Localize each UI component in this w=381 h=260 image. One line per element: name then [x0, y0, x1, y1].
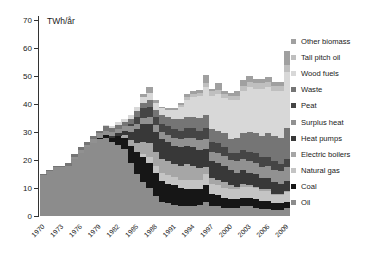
bar-segment-wood-fuels: [215, 94, 222, 130]
bar-segment-electric-boilers: [190, 166, 197, 180]
legend-item: Coal: [291, 179, 350, 195]
legend-label: Oil: [301, 198, 310, 207]
bar-segment-tall-pitch-oil: [228, 96, 235, 100]
bar-segment-other-biomass: [228, 93, 235, 96]
bar-segment-peat: [153, 117, 160, 125]
bar-segment-heat-pumps: [271, 182, 278, 193]
bar-segment-peat: [134, 117, 141, 124]
legend-item: Heat pumps: [291, 130, 350, 146]
bar-segment-coal: [184, 189, 191, 206]
bar-segment-heat-pumps: [128, 132, 135, 140]
legend-swatch: [291, 152, 296, 157]
bar-segment-heat-pumps: [121, 131, 128, 135]
bar-segment-oil: [84, 147, 91, 216]
bar-segment-wood-fuels: [228, 100, 235, 139]
y-axis-tick-label: 30: [23, 128, 32, 137]
bar-segment-oil: [178, 206, 185, 216]
bar-segment-waste: [265, 133, 272, 157]
bar-segment-waste: [84, 142, 91, 145]
bar-segment-oil: [153, 196, 160, 216]
x-axis-tick-label: 2003: [236, 223, 252, 239]
bar-segment-oil: [146, 188, 153, 216]
bar-segment-other-biomass: [140, 94, 147, 97]
bar-segment-surplus-heat: [215, 153, 222, 163]
bar-segment-heat-pumps: [259, 178, 266, 189]
bar-segment-heat-pumps: [146, 124, 153, 144]
y-axis-title: TWh/år: [47, 16, 75, 26]
bar-segment-tall-pitch-oil: [184, 97, 191, 100]
bar-segment-natural-gas: [278, 195, 285, 203]
bar-segment-tall-pitch-oil: [246, 82, 253, 88]
bar-segment-surplus-heat: [228, 160, 235, 170]
bar-segment-waste: [215, 131, 222, 144]
bar-segment-wood-fuels: [103, 125, 110, 126]
bar-segment-other-biomass: [259, 79, 266, 83]
bar-segment-wood-fuels: [196, 96, 203, 118]
bar-segment-coal: [146, 163, 153, 188]
bar-segment-peat: [184, 128, 191, 138]
bar-segment-coal: [153, 173, 160, 197]
legend-item: Other biomass: [291, 33, 350, 49]
bar-segment-surplus-heat: [146, 117, 153, 124]
bar-segment-peat: [196, 131, 203, 141]
bar-segment-heat-pumps: [228, 170, 235, 185]
bar-segment-wood-fuels: [259, 89, 266, 137]
bar-segment-wood-fuels: [284, 72, 291, 128]
bar-segment-oil: [271, 210, 278, 216]
bars-group: [40, 51, 290, 216]
bar-segment-other-biomass: [234, 91, 241, 95]
bar-segment-coal: [109, 138, 116, 142]
bar-segment-oil: [240, 206, 247, 216]
bar-segment-wood-fuels: [234, 100, 241, 138]
bar-segment-natural-gas: [190, 180, 197, 190]
bar-segment-oil: [190, 206, 197, 216]
bar-segment-waste: [171, 119, 178, 129]
bar-segment-wood-fuels: [278, 91, 285, 137]
bar-segment-electric-boilers: [215, 180, 222, 186]
bar-segment-coal: [196, 189, 203, 204]
bar-segment-peat: [246, 152, 253, 162]
bar-segment-oil: [121, 149, 128, 216]
bar-segment-coal: [265, 201, 272, 209]
bar-segment-oil: [46, 171, 53, 216]
bar-segment-peat: [209, 142, 216, 152]
bar-segment-electric-boilers: [146, 143, 153, 157]
y-axis-tick-label: 70: [23, 16, 32, 25]
bar-segment-peat: [271, 161, 278, 169]
bar-segment-waste: [246, 132, 253, 152]
bar-segment-surplus-heat: [234, 161, 241, 172]
x-axis-tick-label: 1994: [180, 223, 196, 239]
bar-segment-oil: [196, 205, 203, 216]
bar-segment-wood-fuels: [146, 93, 153, 100]
bar-segment-waste: [153, 110, 160, 117]
x-axis-labels: 1970197319761979198219851988199119941997…: [30, 223, 290, 239]
bar-segment-oil: [259, 209, 266, 216]
bar-segment-peat: [159, 124, 166, 132]
bar-segment-natural-gas: [284, 192, 291, 202]
bar-segment-waste: [134, 111, 141, 117]
x-axis-tick-label: 1970: [30, 223, 46, 239]
bar-segment-natural-gas: [215, 185, 222, 195]
bar-segment-wood-fuels: [203, 87, 210, 115]
bar-segment-waste: [96, 131, 103, 134]
bar-segment-waste: [115, 125, 122, 129]
bar-segment-other-biomass: [190, 91, 197, 94]
legend-label: Electric boilers: [301, 150, 350, 159]
legend-swatch: [291, 87, 296, 92]
bar-segment-waste: [259, 136, 266, 157]
bar-segment-wood-fuels: [115, 122, 122, 125]
bar-segment-electric-boilers: [228, 185, 235, 189]
bar-segment-oil: [221, 208, 228, 216]
bar-segment-heat-pumps: [265, 178, 272, 189]
bar-segment-electric-boilers: [178, 166, 185, 180]
bar-segment-waste: [53, 166, 60, 167]
bar-segment-heat-pumps: [284, 181, 291, 191]
legend-item: Oil: [291, 195, 350, 211]
bar-segment-electric-boilers: [246, 185, 253, 186]
bar-segment-electric-boilers: [278, 194, 285, 195]
bar-segment-peat: [228, 153, 235, 160]
legend-label: Wood fuels: [301, 69, 339, 78]
bar-segment-oil: [53, 167, 60, 216]
bar-segment-surplus-heat: [90, 139, 97, 143]
bar-segment-heat-pumps: [209, 161, 216, 178]
